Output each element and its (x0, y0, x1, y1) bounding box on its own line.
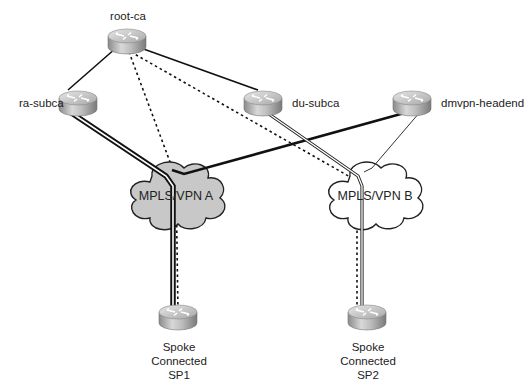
spoke2-line1: Spoke (340, 340, 396, 354)
label-spoke-sp2: Spoke Connected SP2 (340, 340, 396, 382)
router-ra-subca[interactable] (59, 91, 97, 116)
router-root-ca[interactable] (108, 29, 146, 54)
label-ra-subca: ra-subca (19, 96, 64, 110)
spoke2-line2: Connected (340, 354, 396, 368)
label-spoke-sp1: Spoke Connected SP1 (151, 340, 207, 382)
label-dmvpn-headend: dmvpn-headend (441, 96, 524, 110)
label-root-ca: root-ca (110, 9, 146, 23)
spoke1-line3: SP1 (151, 368, 207, 382)
label-du-subca: du-subca (292, 96, 339, 110)
spoke2-line3: SP2 (340, 368, 396, 382)
router-spoke-sp1[interactable] (159, 305, 197, 330)
cloud-b-label: MPLS/VPN B (337, 189, 412, 203)
cloud-a-label: MPLS/VPN A (139, 189, 213, 203)
spoke1-line2: Connected (151, 354, 207, 368)
router-dmvpn-headend[interactable] (393, 91, 431, 116)
router-spoke-sp2[interactable] (348, 305, 386, 330)
link-rootca-dusubca (138, 47, 258, 90)
link-rootca-rasubca (68, 48, 116, 90)
router-du-subca[interactable] (244, 91, 282, 116)
spoke1-line1: Spoke (151, 340, 207, 354)
